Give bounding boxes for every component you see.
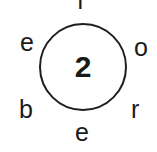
letter-bottom-right: r bbox=[131, 97, 139, 122]
letter-top: f bbox=[77, 0, 84, 13]
center-number: 2 bbox=[62, 50, 104, 84]
letter-top-left: e bbox=[20, 30, 34, 55]
letter-top-right: o bbox=[134, 35, 148, 60]
letter-bottom-left: b bbox=[19, 97, 33, 122]
letter-bottom: e bbox=[75, 120, 89, 145]
